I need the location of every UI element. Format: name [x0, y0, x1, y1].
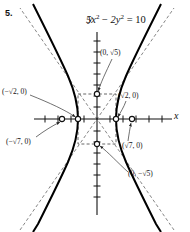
marker-top-vertex: [94, 91, 99, 96]
leader-right-focus: [128, 123, 131, 141]
leader-top-vertex: [99, 59, 113, 91]
curve-left-branch: [33, 4, 78, 119]
curve-left-branch-lower: [33, 119, 78, 232]
curve-right-branch: [116, 4, 161, 119]
marker-left-focus: [59, 116, 64, 121]
marker-bottom-vertex: [94, 141, 99, 146]
marker-left-vertex: [75, 116, 80, 121]
axis-lines: [34, 32, 172, 215]
leader-right-vertex: [118, 101, 126, 117]
hyperbola-graph: [0, 0, 190, 232]
leader-left-focus: [36, 122, 60, 137]
curve-right-branch-lower: [116, 119, 161, 232]
leader-left-vertex: [30, 95, 76, 117]
marker-right-vertex: [113, 116, 118, 121]
marker-right-focus: [129, 116, 134, 121]
